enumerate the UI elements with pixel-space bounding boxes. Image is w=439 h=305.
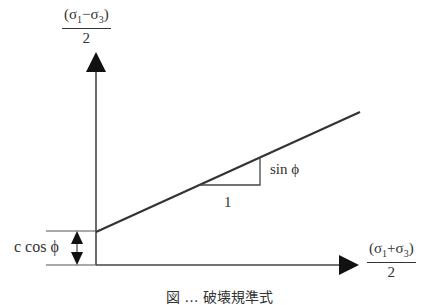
y-axis-label-numerator: (σ1−σ3) (62, 6, 111, 29)
y-axis-label-denominator: 2 (62, 29, 111, 47)
x-axis-label-numerator: (σ1+σ3) (367, 240, 416, 263)
failure-envelope-line (96, 112, 360, 232)
figure-caption: 図 … 破壊規準式 (0, 289, 439, 305)
y-axis-arrow-icon (86, 52, 106, 72)
x-axis-arrow-icon (339, 255, 359, 275)
x-axis-label: (σ1+σ3) 2 (367, 240, 416, 281)
slope-rise-label: sin ϕ (270, 161, 299, 178)
x-axis-label-denominator: 2 (367, 263, 416, 281)
intercept-arrow-down-icon (71, 252, 83, 265)
intercept-arrow-up-icon (71, 231, 83, 244)
intercept-label: c cos ϕ (14, 238, 59, 256)
y-axis-label: (σ1−σ3) 2 (62, 6, 111, 47)
slope-run-label: 1 (224, 194, 232, 211)
